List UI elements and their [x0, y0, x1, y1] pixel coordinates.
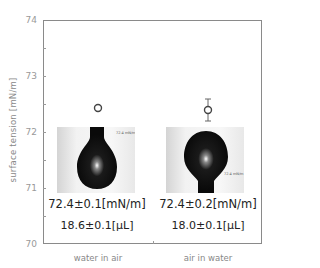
- annotation-right-volume: 18.0±0.1[μL]: [153, 219, 263, 232]
- annotation-right-tension: 72.4±0.2[mN/m]: [153, 197, 263, 211]
- point-water-in-air: [95, 104, 102, 112]
- annotation-left-volume: 18.6±0.1[μL]: [42, 219, 152, 232]
- xcat-label-air-in-water: air in water: [168, 253, 248, 263]
- point-air-in-water: [205, 99, 212, 121]
- xcat-label-water-in-air: water in air: [58, 253, 138, 263]
- annotation-left-tension: 72.4±0.1[mN/m]: [42, 197, 152, 211]
